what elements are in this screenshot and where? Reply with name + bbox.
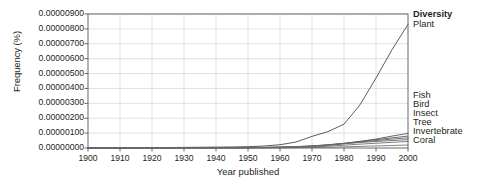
legend-item-plant: Plant <box>413 20 434 30</box>
chart-container: Frequency (%) 0.000000000.000001000.0000… <box>0 0 486 184</box>
legend: DiversityPlantFishBirdInsectTreeInverteb… <box>0 0 486 184</box>
legend-item-coral: Coral <box>413 136 435 146</box>
